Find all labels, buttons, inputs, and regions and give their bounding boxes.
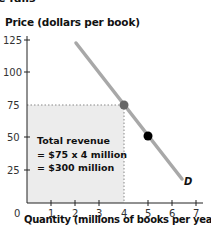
y-tick-25: 25: [7, 165, 20, 176]
x-tick-0: 0: [14, 208, 20, 219]
total-revenue-title: Total revenue: [37, 135, 110, 146]
y-tick-50: 50: [7, 132, 20, 143]
total-revenue-result: = $300 million: [37, 162, 114, 173]
point-q4-p75: [120, 101, 129, 110]
y-tick-75: 75: [7, 100, 20, 111]
y-tick-100: 100: [3, 67, 22, 78]
y-tick-125: 125: [3, 35, 22, 46]
demand-label: D: [184, 176, 192, 187]
total-revenue-formula: = $75 x 4 million: [37, 149, 127, 160]
point-q5-p50: [144, 132, 153, 141]
demand-chart: 125 100 75 50 25 0 1 2 3 4 5 6 7 Total r…: [0, 0, 211, 234]
x-axis-label: Quantity (millions of books per year): [24, 214, 211, 225]
